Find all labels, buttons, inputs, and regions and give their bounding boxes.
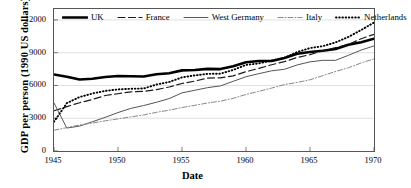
legend-label: France — [143, 12, 183, 22]
chart-canvas — [54, 9, 374, 151]
legend-swatch-icon — [183, 13, 209, 22]
x-tick-label: 1950 — [109, 155, 126, 165]
y-axis-tick-labels: 030006000900012000 — [0, 0, 50, 188]
series-line-west-germany — [54, 46, 374, 128]
y-tick-label: 3000 — [2, 112, 46, 122]
x-tick-label: 1955 — [173, 155, 190, 165]
x-tick-label: 1970 — [365, 155, 382, 165]
x-axis-title: Date — [0, 170, 385, 181]
legend-swatch-icon — [335, 13, 361, 22]
legend-item-west-germany[interactable]: West Germany — [183, 12, 277, 22]
y-tick-label: 0 — [2, 145, 46, 155]
legend-item-uk[interactable]: UK — [62, 12, 117, 22]
legend-label: UK — [88, 12, 117, 22]
chart-legend: UKFranceWest GermanyItalyNetherlands — [62, 12, 411, 22]
x-tick-label: 1945 — [45, 155, 62, 165]
series-line-netherlands — [54, 23, 374, 122]
legend-item-netherlands[interactable]: Netherlands — [335, 12, 411, 22]
series-line-france — [54, 34, 374, 110]
legend-label: West Germany — [209, 12, 277, 22]
legend-item-italy[interactable]: Italy — [277, 12, 335, 22]
y-tick-label: 9000 — [2, 47, 46, 57]
legend-label: Netherlands — [361, 12, 411, 22]
legend-item-france[interactable]: France — [117, 12, 183, 22]
x-tick-label: 1965 — [301, 155, 318, 165]
plot-area — [53, 8, 375, 152]
legend-label: Italy — [303, 12, 335, 22]
legend-swatch-icon — [62, 13, 88, 22]
y-tick-label: 6000 — [2, 79, 46, 89]
legend-swatch-icon — [117, 13, 143, 22]
x-tick-label: 1960 — [237, 155, 254, 165]
y-tick-label: 12000 — [2, 14, 46, 24]
legend-swatch-icon — [277, 13, 303, 22]
